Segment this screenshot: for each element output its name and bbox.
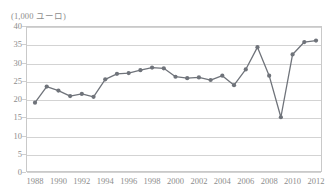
x-axis-tick-label: 2010 bbox=[284, 176, 301, 186]
data-point-marker bbox=[220, 74, 224, 78]
data-point-marker bbox=[244, 67, 248, 71]
data-point-marker bbox=[150, 66, 154, 70]
data-point-marker bbox=[162, 66, 166, 70]
x-axis-tick-label: 1998 bbox=[144, 176, 161, 186]
data-point-marker bbox=[314, 39, 318, 43]
x-axis-tick-label: 2002 bbox=[190, 176, 207, 186]
data-point-marker bbox=[267, 74, 271, 78]
y-axis-tick-label: 25 bbox=[2, 77, 22, 86]
x-axis-tick-labels: 1988199019921994199619982000200220042006… bbox=[26, 176, 322, 192]
data-point-marker bbox=[127, 71, 131, 75]
data-point-marker bbox=[173, 75, 177, 79]
series-markers bbox=[33, 39, 318, 120]
x-axis-tick-label: 2004 bbox=[214, 176, 231, 186]
data-point-marker bbox=[33, 101, 37, 105]
series-polyline bbox=[35, 41, 316, 118]
data-point-marker bbox=[197, 75, 201, 79]
data-point-marker bbox=[91, 95, 95, 99]
x-axis-tick-label: 1994 bbox=[97, 176, 114, 186]
data-point-marker bbox=[279, 115, 283, 119]
y-axis-unit-label: (1,000 ユーロ) bbox=[11, 9, 66, 21]
series-line-group bbox=[26, 26, 322, 172]
x-axis-tick-label: 1988 bbox=[27, 176, 44, 186]
x-axis-tick-label: 2012 bbox=[308, 176, 325, 186]
data-point-marker bbox=[80, 92, 84, 96]
y-axis-tick-label: 5 bbox=[2, 150, 22, 159]
data-point-marker bbox=[185, 76, 189, 80]
y-axis-tick-label: 10 bbox=[2, 132, 22, 141]
data-point-marker bbox=[209, 78, 213, 82]
y-axis-tick-label: 0 bbox=[2, 168, 22, 177]
y-axis-tick-label: 30 bbox=[2, 59, 22, 68]
data-point-marker bbox=[56, 89, 60, 93]
x-axis-tick-label: 1992 bbox=[73, 176, 90, 186]
y-axis-tick-label: 35 bbox=[2, 40, 22, 49]
gridline bbox=[27, 172, 321, 173]
data-point-marker bbox=[103, 77, 107, 81]
data-point-marker bbox=[45, 84, 49, 88]
data-point-marker bbox=[290, 52, 294, 56]
x-axis-tick-label: 2008 bbox=[261, 176, 278, 186]
data-point-marker bbox=[138, 68, 142, 72]
data-point-marker bbox=[115, 72, 119, 76]
y-axis-tick-mark bbox=[22, 172, 26, 173]
data-point-marker bbox=[68, 94, 72, 98]
data-point-marker bbox=[302, 40, 306, 44]
y-axis-tick-label: 20 bbox=[2, 95, 22, 104]
data-point-marker bbox=[255, 45, 259, 49]
y-axis-tick-label: 40 bbox=[2, 22, 22, 31]
x-axis-tick-label: 1996 bbox=[120, 176, 137, 186]
line-chart: (1,000 ユーロ) 4035302520151050 19881990199… bbox=[0, 0, 332, 196]
data-point-marker bbox=[232, 83, 236, 87]
x-axis-tick-label: 2000 bbox=[167, 176, 184, 186]
y-axis-tick-label: 15 bbox=[2, 113, 22, 122]
x-axis-tick-label: 2006 bbox=[237, 176, 254, 186]
x-axis-tick-label: 1990 bbox=[50, 176, 67, 186]
